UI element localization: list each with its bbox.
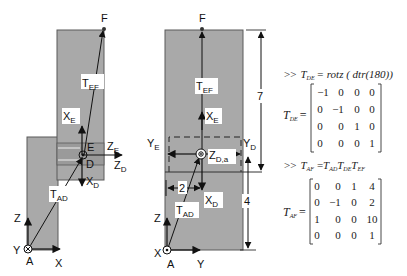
left-label-x: X [55, 257, 63, 269]
right-label-ye: YE [147, 137, 160, 152]
svg-text:0: 0 [314, 180, 320, 192]
eq1-matrix: −1 0 0 0 0 −1 0 0 0 0 1 0 0 0 0 1 [317, 86, 375, 149]
svg-text:0: 0 [351, 229, 357, 241]
right-label-f: F [199, 12, 206, 24]
svg-text:4: 4 [369, 180, 375, 192]
svg-text:2: 2 [369, 196, 375, 208]
left-label-z: Z [14, 212, 21, 224]
right-label-a: A [167, 258, 175, 270]
svg-text:−1: −1 [332, 103, 344, 115]
svg-text:0: 0 [354, 103, 360, 115]
left-label-a: A [26, 255, 34, 267]
right-label-x: X [154, 247, 162, 259]
svg-text:1: 1 [369, 137, 375, 149]
eq2-matrix-name: TAF= [283, 205, 306, 219]
svg-text:1: 1 [351, 180, 357, 192]
svg-text:0: 0 [314, 196, 320, 208]
kinematic-diagram: F TEF XE E D ZE ZD XD TAD Z Y A X [0, 0, 407, 276]
svg-text:0: 0 [338, 137, 344, 149]
right-dim-upper-label: 7 [257, 90, 263, 102]
svg-text:1: 1 [354, 120, 360, 132]
right-label-yd: YD [243, 137, 256, 152]
left-point-f-dot [102, 27, 106, 31]
equation-tde: >>TDE= rotz ( dtr(180)) TDE= −1 0 0 0 0 … [283, 68, 393, 152]
left-label-d: D [86, 158, 94, 170]
svg-text:−1: −1 [317, 86, 329, 98]
left-label-ze: ZE [107, 140, 119, 155]
eq2-matrix: 0 0 1 4 0 −1 0 2 1 0 0 10 0 0 0 1 [314, 180, 378, 241]
svg-text:0: 0 [338, 120, 344, 132]
right-dim-offset-label: 2 [179, 182, 185, 194]
right-figure: 2 7 4 F TEF XE YE YD ZD,a XD TAD Z X A Y [147, 12, 267, 270]
eq1-matrix-name: TDE= [283, 108, 307, 122]
left-figure: F TEF XE E D ZE ZD XD TAD Z Y A X [13, 12, 127, 269]
svg-text:0: 0 [317, 103, 323, 115]
svg-text:0: 0 [354, 137, 360, 149]
left-label-zd: ZD [114, 159, 127, 174]
eq2-line: >>TAF=TADTDETEF [284, 159, 365, 172]
svg-text:0: 0 [338, 86, 344, 98]
svg-text:0: 0 [314, 229, 320, 241]
right-label-z: Z [154, 212, 161, 224]
left-label-e: E [87, 141, 94, 153]
svg-text:0: 0 [369, 86, 375, 98]
left-label-f: F [101, 12, 108, 24]
right-point-f-dot [200, 27, 204, 31]
svg-text:−1: −1 [329, 196, 341, 208]
svg-text:0: 0 [335, 213, 341, 225]
svg-text:1: 1 [314, 213, 320, 225]
equation-taf: >>TAF=TADTDETEF TAF= 0 0 1 4 0 −1 0 2 1 … [283, 159, 381, 244]
svg-text:0: 0 [369, 120, 375, 132]
svg-text:0: 0 [317, 137, 323, 149]
svg-text:0: 0 [335, 229, 341, 241]
eq1-line: >>TDE= rotz ( dtr(180)) [284, 68, 393, 81]
svg-text:0: 0 [335, 180, 341, 192]
svg-text:1: 1 [369, 229, 375, 241]
svg-text:10: 10 [367, 213, 379, 225]
svg-text:0: 0 [351, 196, 357, 208]
left-joint-band [57, 143, 104, 165]
svg-text:0: 0 [317, 120, 323, 132]
svg-text:0: 0 [351, 213, 357, 225]
svg-text:0: 0 [354, 86, 360, 98]
left-label-y: Y [13, 244, 21, 256]
right-label-y: Y [197, 258, 205, 270]
svg-text:0: 0 [369, 103, 375, 115]
right-dim-lower-label: 4 [244, 195, 250, 207]
